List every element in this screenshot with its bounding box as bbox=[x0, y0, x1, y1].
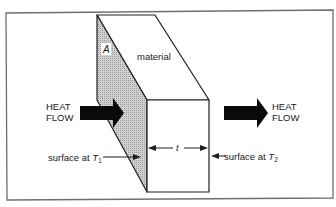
heat-flow-out-label-line1: HEAT bbox=[272, 101, 297, 112]
thickness-label: t bbox=[176, 142, 179, 153]
surface-t1-label: surface at T1 bbox=[48, 152, 102, 164]
surface-t2-label: surface at T2 bbox=[224, 151, 278, 163]
material-label: material bbox=[137, 51, 171, 62]
heat-flow-in-label-line2: FLOW bbox=[46, 112, 73, 123]
heat-conduction-diagram: A material HEAT FLOW HEAT FLOW t surface… bbox=[0, 0, 336, 207]
heat-flow-in-label-line1: HEAT bbox=[46, 101, 71, 112]
area-label: A bbox=[102, 44, 110, 55]
heat-flow-out-label-line2: FLOW bbox=[272, 112, 299, 123]
